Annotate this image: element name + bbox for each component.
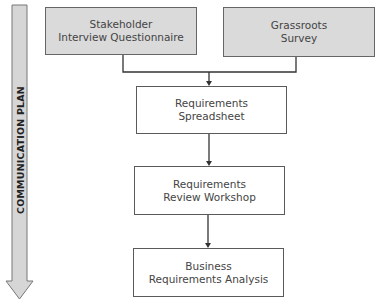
box-line-2: Interview Questionnaire	[58, 31, 184, 44]
box-line-2: Spreadsheet	[178, 110, 244, 123]
box-line-2: Requirements Analysis	[149, 273, 269, 286]
box-line-1: Business	[185, 260, 231, 273]
box-line-1: Requirements	[175, 97, 248, 110]
box-line-1: Grassroots	[271, 19, 327, 32]
box-line-2: Review Workshop	[163, 191, 256, 204]
business-requirements-analysis-box: Business Requirements Analysis	[133, 248, 284, 297]
box-line-1: Requirements	[173, 178, 246, 191]
stakeholder-questionnaire-box: Stakeholder Interview Questionnaire	[45, 7, 197, 55]
communication-plan-label: COMMUNICATION PLAN	[15, 86, 26, 214]
box-line-1: Stakeholder	[90, 18, 153, 31]
grassroots-survey-box: Grassroots Survey	[223, 7, 375, 57]
requirements-spreadsheet-box: Requirements Spreadsheet	[136, 86, 287, 134]
box-line-2: Survey	[281, 32, 318, 45]
requirements-review-workshop-box: Requirements Review Workshop	[134, 166, 285, 215]
